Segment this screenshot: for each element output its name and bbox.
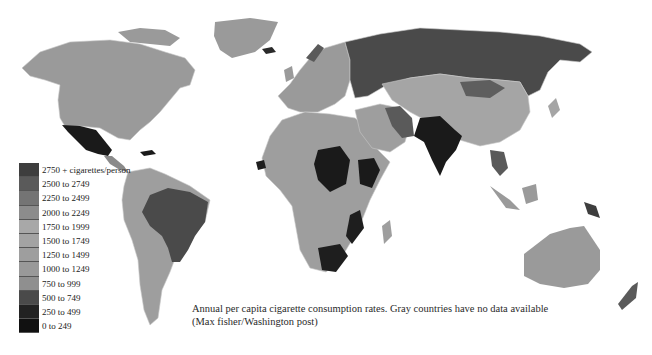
legend-swatch [19, 291, 39, 305]
legend-swatch [19, 163, 39, 177]
region-australia [524, 226, 600, 288]
legend-label: 1750 to 1999 [42, 222, 90, 232]
legend-item: 1750 to 1999 [19, 220, 131, 234]
region-borneo [522, 184, 538, 204]
figure-caption: Annual per capita cigarette consumption … [192, 302, 572, 328]
legend-swatch [19, 319, 39, 333]
region-southeast-asia [490, 150, 508, 176]
legend-label: 0 to 249 [42, 321, 72, 331]
legend-item: 1250 to 1499 [19, 248, 131, 262]
legend-label: 750 to 999 [42, 279, 81, 289]
legend-swatch [19, 191, 39, 205]
legend-label: 500 to 749 [42, 293, 81, 303]
legend-label: 2250 to 2499 [42, 193, 90, 203]
legend-item: 1000 to 1249 [19, 262, 131, 276]
legend-label: 1000 to 1249 [42, 264, 90, 274]
region-new-zealand [618, 282, 638, 310]
region-japan [548, 98, 560, 118]
legend-swatch [19, 220, 39, 234]
legend-item: 750 to 999 [19, 277, 131, 291]
region-uk [284, 66, 294, 82]
legend-swatch [19, 305, 39, 319]
legend-swatch [19, 277, 39, 291]
region-iceland [262, 47, 276, 54]
legend-swatch [19, 262, 39, 276]
legend-label: 250 to 499 [42, 307, 81, 317]
legend-swatch [19, 248, 39, 262]
legend-label: 2500 to 2749 [42, 179, 90, 189]
legend-label: 1250 to 1499 [42, 250, 90, 260]
legend-item: 0 to 249 [19, 319, 131, 333]
legend-item: 500 to 749 [19, 291, 131, 305]
legend-label: 1500 to 1749 [42, 236, 90, 246]
region-caribbean [140, 150, 156, 156]
legend-item: 1500 to 1749 [19, 234, 131, 248]
legend-swatch [19, 234, 39, 248]
region-north-america [22, 40, 195, 140]
legend-item: 2000 to 2249 [19, 206, 131, 220]
legend-item: 2250 to 2499 [19, 191, 131, 205]
legend-swatch [19, 206, 39, 220]
legend-item: 250 to 499 [19, 305, 131, 319]
legend-swatch [19, 177, 39, 191]
legend-label: 2000 to 2249 [42, 208, 90, 218]
region-madagascar [382, 220, 392, 244]
region-papua [584, 202, 600, 218]
legend-label: 2750 + cigarettes/person [42, 165, 131, 175]
legend-item: 2750 + cigarettes/person [19, 163, 131, 177]
legend: 2750 + cigarettes/person 2500 to 2749 22… [19, 163, 131, 333]
region-indonesia [490, 186, 520, 210]
legend-item: 2500 to 2749 [19, 177, 131, 191]
